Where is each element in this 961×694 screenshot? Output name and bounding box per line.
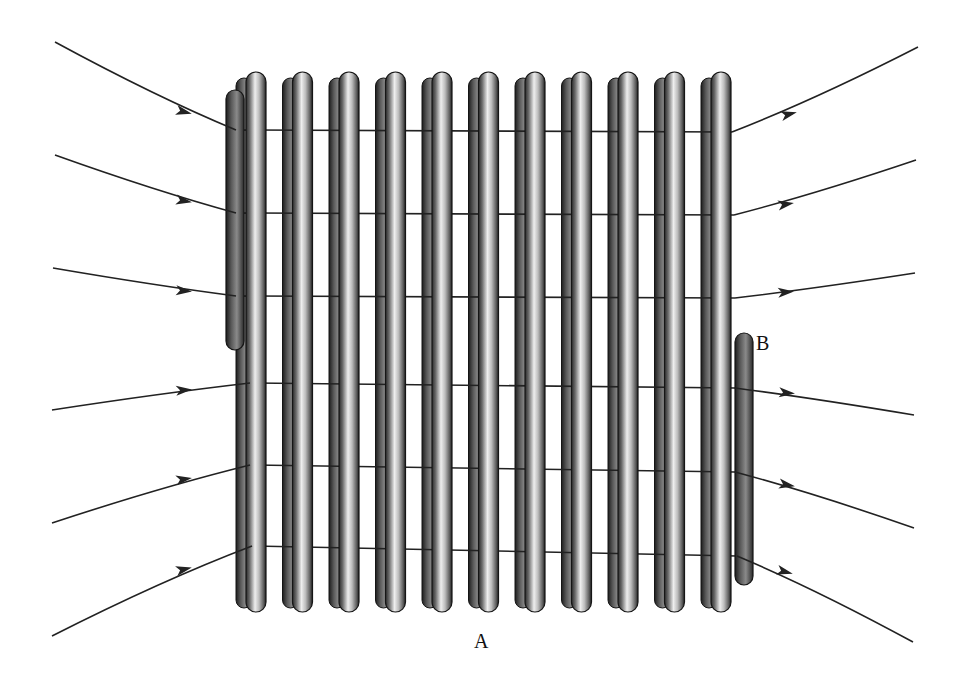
coil-front-wire	[339, 72, 359, 612]
coil-front-wire	[618, 72, 638, 612]
field-arrow-icon	[176, 384, 193, 395]
field-line-right	[735, 273, 915, 298]
field-arrow-icon	[176, 285, 193, 296]
coil-front-wire	[525, 72, 545, 612]
terminal-b-label: B	[756, 333, 769, 353]
coil-front-wire	[386, 72, 406, 612]
field-line-left	[55, 42, 236, 130]
coil-front-wire	[479, 72, 499, 612]
field-line-right	[737, 556, 913, 642]
coil-front-wire	[432, 72, 452, 612]
coil-front-wire	[246, 72, 266, 612]
coil-front-wire	[293, 72, 313, 612]
field-line-left	[55, 155, 236, 213]
field-arrow-icon	[779, 387, 796, 398]
field-line-right	[735, 472, 914, 528]
coil-front-wire	[572, 72, 592, 612]
field-arrow-icon	[780, 108, 798, 121]
field-line-left	[52, 546, 252, 636]
terminal-b-lead-wire	[735, 333, 753, 585]
coil-front-wire	[711, 72, 731, 612]
field-line-right	[732, 47, 918, 132]
field-line-right	[734, 160, 916, 215]
field-line-left	[52, 465, 250, 523]
field-line-right	[735, 388, 914, 415]
field-line-left	[53, 268, 236, 296]
solenoid-diagram	[0, 0, 961, 694]
field-line-left	[52, 383, 250, 410]
terminal-a-label: A	[474, 631, 488, 651]
coil-front-wire	[665, 72, 685, 612]
